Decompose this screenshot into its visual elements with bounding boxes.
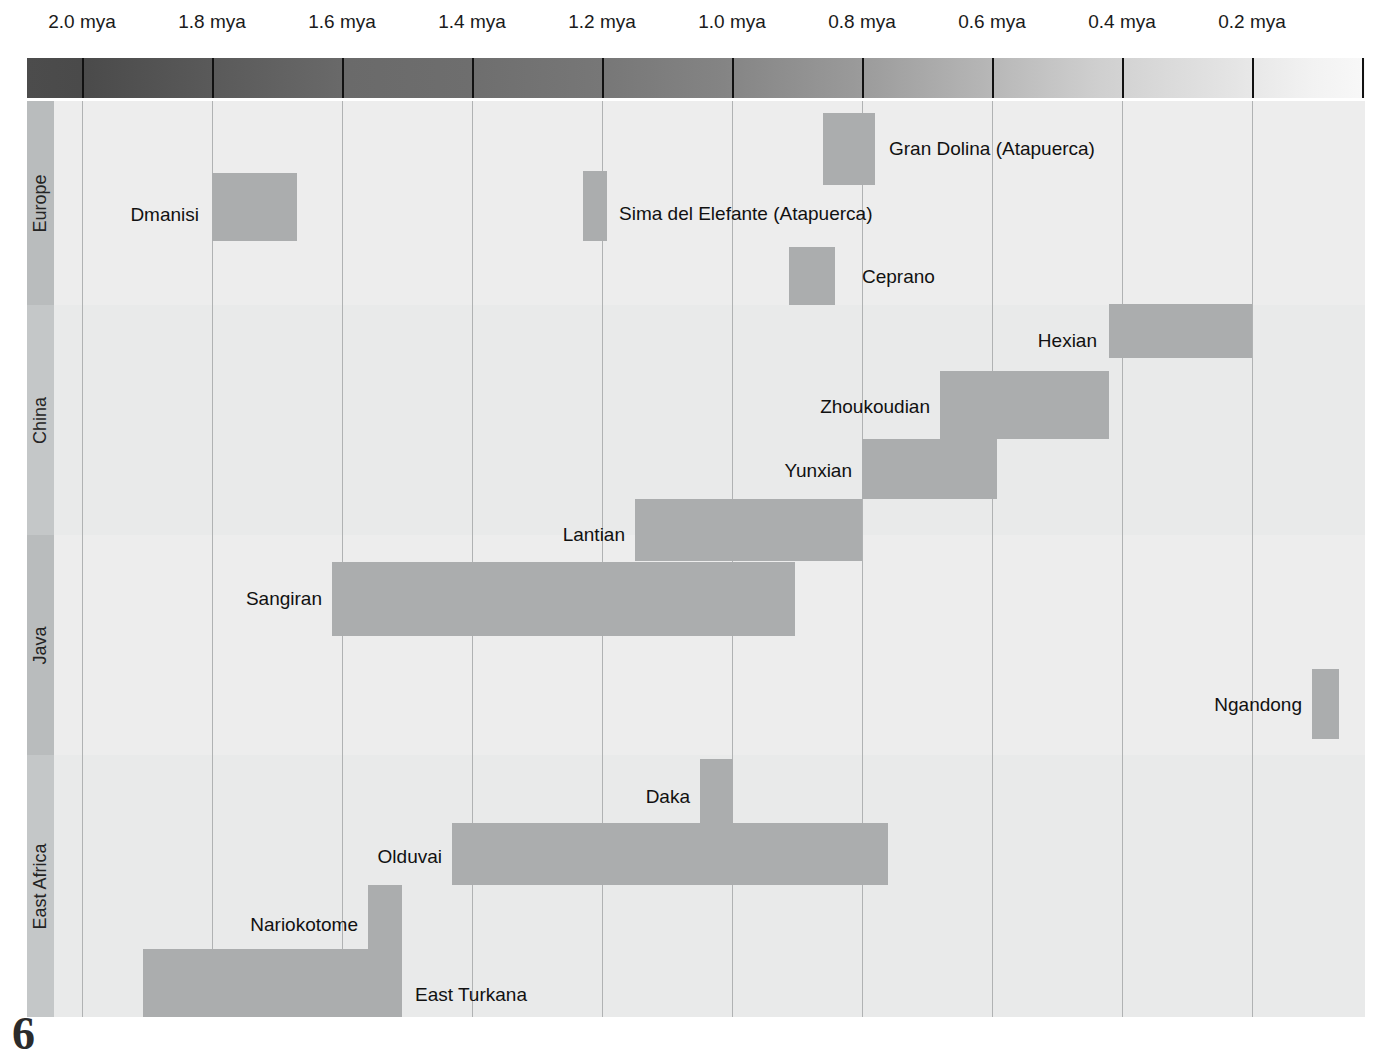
site-bar-east-turkana xyxy=(143,949,402,1017)
site-label-gran-dolina: Gran Dolina (Atapuerca) xyxy=(889,138,1095,160)
gradient-tick-end xyxy=(1362,58,1364,98)
gradient-tick-1-2 xyxy=(602,58,604,98)
page-number-glyph: 6 xyxy=(12,1014,35,1049)
gridline-0-4 xyxy=(1122,101,1123,1017)
region-label-java: Java xyxy=(30,626,51,664)
region-label-europe: Europe xyxy=(30,174,51,232)
region-tab-east-africa: East Africa xyxy=(27,755,54,1017)
site-label-sima-del-elefante: Sima del Elefante (Atapuerca) xyxy=(619,203,872,225)
region-tab-china: China xyxy=(27,305,54,535)
site-bar-zhoukoudian xyxy=(940,371,1109,439)
gradient-tick-0-2 xyxy=(1252,58,1254,98)
site-bar-sima-del-elefante xyxy=(583,171,607,241)
region-tab-java: Java xyxy=(27,535,54,755)
site-bar-ngandong xyxy=(1312,669,1339,739)
site-label-daka: Daka xyxy=(646,786,690,808)
axis-tick-1-6: 1.6 mya xyxy=(308,11,376,33)
site-bar-lantian xyxy=(635,499,862,561)
site-bar-ceprano xyxy=(789,247,835,305)
gridline-0-2 xyxy=(1252,101,1253,1017)
site-label-ceprano: Ceprano xyxy=(862,266,935,288)
axis-tick-2-0: 2.0 mya xyxy=(48,11,116,33)
site-label-hexian: Hexian xyxy=(1038,330,1097,352)
gridline-1-6 xyxy=(342,101,343,1017)
site-label-ngandong: Ngandong xyxy=(1214,694,1302,716)
site-label-zhoukoudian: Zhoukoudian xyxy=(820,396,930,418)
site-bar-gran-dolina xyxy=(823,113,875,185)
site-bar-dmanisi xyxy=(212,173,297,241)
gradient-tick-1-8 xyxy=(212,58,214,98)
gradient-tick-0-8 xyxy=(862,58,864,98)
site-bar-nariokotome xyxy=(368,885,402,949)
site-label-nariokotome: Nariokotome xyxy=(250,914,358,936)
site-bar-yunxian xyxy=(862,439,997,499)
site-label-lantian: Lantian xyxy=(563,524,625,546)
site-bar-olduvai xyxy=(452,823,888,885)
region-label-east-africa: East Africa xyxy=(30,843,51,929)
axis-tick-0-8: 0.8 mya xyxy=(828,11,896,33)
site-label-dmanisi: Dmanisi xyxy=(130,204,199,226)
timeline-figure: 2.0 mya 1.8 mya 1.6 mya 1.4 mya 1.2 mya … xyxy=(0,0,1392,1049)
site-label-east-turkana: East Turkana xyxy=(415,984,527,1006)
axis-tick-1-8: 1.8 mya xyxy=(178,11,246,33)
gridline-2-0 xyxy=(82,101,83,1017)
time-gradient-bar xyxy=(27,58,1365,98)
region-label-china: China xyxy=(30,396,51,443)
plot-area: Europe China Java East Africa Gran Dolin… xyxy=(27,101,1365,1017)
gradient-tick-1-6 xyxy=(342,58,344,98)
site-label-sangiran: Sangiran xyxy=(246,588,322,610)
axis-tick-0-2: 0.2 mya xyxy=(1218,11,1286,33)
gradient-tick-2-0 xyxy=(82,58,84,98)
gradient-tick-0-4 xyxy=(1122,58,1124,98)
site-label-olduvai: Olduvai xyxy=(378,846,442,868)
site-bar-daka xyxy=(700,759,733,823)
axis-tick-1-0: 1.0 mya xyxy=(698,11,766,33)
site-bar-sangiran xyxy=(332,562,795,636)
site-bar-hexian xyxy=(1109,304,1252,358)
axis-tick-0-6: 0.6 mya xyxy=(958,11,1026,33)
gradient-tick-1-0 xyxy=(732,58,734,98)
site-label-yunxian: Yunxian xyxy=(784,460,852,482)
region-label-column: Europe China Java East Africa xyxy=(27,101,54,1017)
axis-tick-1-2: 1.2 mya xyxy=(568,11,636,33)
axis-label-row: 2.0 mya 1.8 mya 1.6 mya 1.4 mya 1.2 mya … xyxy=(0,0,1392,55)
region-tab-europe: Europe xyxy=(27,101,54,305)
gradient-tick-0-6 xyxy=(992,58,994,98)
gradient-tick-1-4 xyxy=(472,58,474,98)
axis-tick-1-4: 1.4 mya xyxy=(438,11,506,33)
axis-tick-0-4: 0.4 mya xyxy=(1088,11,1156,33)
gridline-0-6 xyxy=(992,101,993,1017)
